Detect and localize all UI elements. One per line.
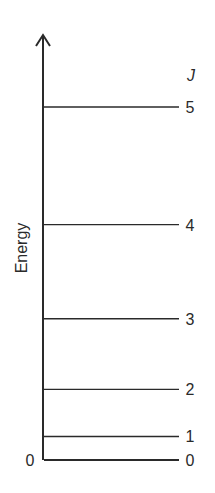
j-column-header: J xyxy=(186,67,196,84)
level-label-j3: 3 xyxy=(186,311,195,328)
origin-label: 0 xyxy=(26,452,35,469)
level-label-j1: 1 xyxy=(186,428,195,445)
level-label-j0: 0 xyxy=(186,452,195,469)
level-label-j2: 2 xyxy=(186,381,195,398)
energy-axis-label: Energy xyxy=(13,223,30,274)
level-label-j4: 4 xyxy=(186,217,195,234)
level-label-j5: 5 xyxy=(186,99,195,116)
energy-level-diagram: Energy 0 J 012345 xyxy=(0,0,215,493)
